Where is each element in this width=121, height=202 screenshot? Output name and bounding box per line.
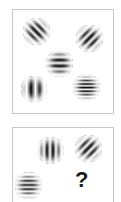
gabor-patch-horizontal-medium [46, 50, 73, 77]
gabor-patch-horizontal-high [15, 172, 42, 199]
gaussian-window [73, 74, 100, 101]
top-stimulus-panel [12, 9, 114, 114]
gaussian-window [21, 76, 47, 102]
missing-item-placeholder: ? [75, 169, 88, 191]
gaussian-window [76, 25, 103, 52]
gabor-patch-horizontal-high [73, 74, 100, 101]
gaussian-window [75, 135, 102, 162]
gabor-patch-diagonal-left [75, 135, 102, 162]
gabor-patch-diagonal-right [23, 18, 50, 45]
gaussian-window [37, 137, 64, 164]
bottom-query-panel: ? [12, 127, 114, 202]
figure-canvas: ? [0, 0, 121, 202]
gabor-patch-vertical-medium [37, 137, 64, 164]
gaussian-window [23, 18, 50, 45]
gabor-patch-vertical-low [21, 76, 47, 102]
gaussian-window [15, 172, 42, 199]
gabor-patch-diagonal-left [76, 25, 103, 52]
gaussian-window [46, 50, 73, 77]
